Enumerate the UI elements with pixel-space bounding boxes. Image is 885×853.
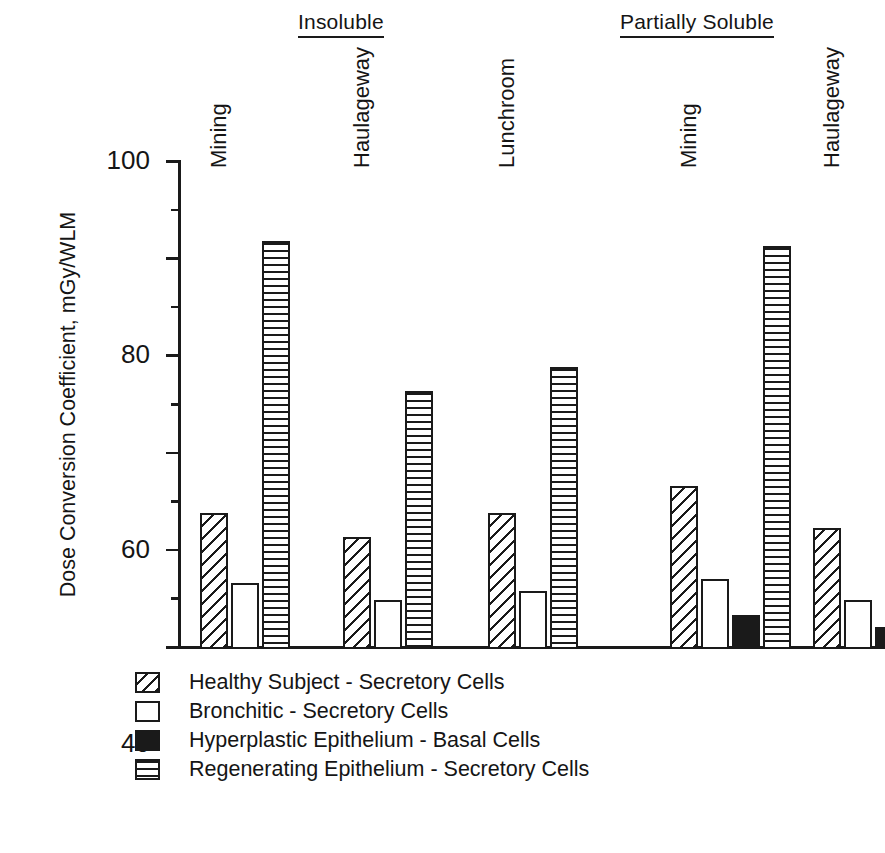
y-axis-minor-tick (171, 306, 178, 309)
y-axis-minor-tick (171, 500, 178, 503)
bar (670, 486, 698, 649)
bar (732, 615, 760, 649)
bar (519, 591, 547, 649)
bar (763, 246, 791, 649)
y-axis-major-tick: 100 (166, 160, 178, 163)
bar (231, 583, 259, 649)
diagonal-hatch-swatch-icon (135, 672, 160, 693)
legend-item-label: Bronchitic - Secretory Cells (189, 699, 448, 724)
y-axis-line (178, 160, 181, 649)
y-axis-tick-label: 100 (107, 145, 150, 176)
legend-item[interactable]: Healthy Subject - Secretory Cells (135, 668, 835, 697)
y-axis-minor-tick (171, 209, 178, 212)
section-header-insoluble: Insoluble (298, 10, 384, 38)
chart-legend: Healthy Subject - Secretory CellsBronchi… (135, 668, 835, 784)
bar (550, 367, 578, 649)
empty-swatch-icon (135, 701, 160, 722)
bar (343, 537, 371, 649)
section-header-partially-soluble: Partially Soluble (620, 10, 774, 38)
bar (200, 513, 228, 649)
y-axis-minor-tick (171, 403, 178, 406)
chart-plot-area: 020406080100 MiningHaulagewayLunchroomMi… (178, 160, 878, 649)
y-axis-major-tick: 0 (166, 646, 178, 649)
y-axis-tick-label: 80 (121, 339, 150, 370)
category-label: Haulageway (349, 47, 375, 168)
y-axis-major-tick: 60 (166, 354, 178, 357)
y-axis-major-tick: 40 (166, 452, 178, 455)
category-label: Mining (676, 103, 702, 168)
bar (405, 391, 433, 649)
legend-item[interactable]: Hyperplastic Epithelium - Basal Cells (135, 726, 835, 755)
category-label: Haulageway (819, 47, 845, 168)
bar (844, 600, 872, 649)
bar (875, 627, 885, 649)
y-axis-major-tick: 80 (166, 257, 178, 260)
y-axis-title: Dose Conversion Coefficient, mGy/WLM (56, 165, 81, 645)
y-axis-tick-label: 60 (121, 533, 150, 564)
y-axis-minor-tick (171, 597, 178, 600)
bar (701, 579, 729, 649)
bar (488, 513, 516, 649)
legend-item-label: Hyperplastic Epithelium - Basal Cells (189, 728, 540, 753)
legend-item-label: Regenerating Epithelium - Secretory Cell… (189, 757, 589, 782)
legend-item[interactable]: Bronchitic - Secretory Cells (135, 697, 835, 726)
category-label: Lunchroom (494, 58, 520, 168)
solid-black-swatch-icon (135, 730, 160, 751)
legend-item[interactable]: Regenerating Epithelium - Secretory Cell… (135, 755, 835, 784)
bar (813, 528, 841, 650)
bar (374, 600, 402, 649)
legend-item-label: Healthy Subject - Secretory Cells (189, 670, 504, 695)
category-label: Mining (206, 103, 232, 168)
bar (262, 241, 290, 649)
y-axis-major-tick: 20 (166, 549, 178, 552)
horizontal-lines-swatch-icon (135, 759, 160, 780)
